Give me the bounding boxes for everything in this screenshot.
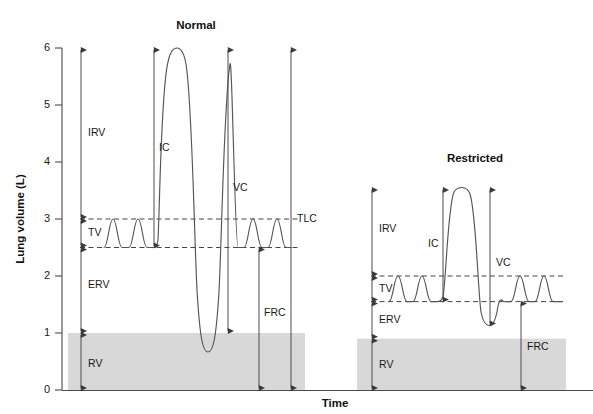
- label-restricted-irv: IRV: [379, 222, 396, 234]
- y-tick-label-6: 6: [44, 41, 50, 53]
- spirogram-chart: 0 1 2 3 4 5 6 Lung volume (L) Time Norma…: [0, 0, 593, 414]
- rv-box-normal: [68, 333, 305, 390]
- label-normal-tlc: TLC: [297, 212, 317, 224]
- label-restricted-erv: ERV: [379, 313, 400, 325]
- panel-title-restricted: Restricted: [447, 152, 503, 164]
- label-normal-rv: RV: [88, 357, 102, 369]
- y-tick-label-3: 3: [44, 212, 50, 224]
- y-tick-label-2: 2: [44, 269, 50, 281]
- label-normal-tv: TV: [88, 226, 101, 238]
- label-normal-erv: ERV: [88, 278, 109, 290]
- label-restricted-vc: VC: [496, 256, 511, 268]
- label-restricted-frc: FRC: [527, 340, 549, 352]
- label-normal-vc: VC: [233, 181, 248, 193]
- label-normal-irv: IRV: [88, 126, 105, 138]
- label-normal-frc: FRC: [264, 306, 286, 318]
- y-axis-title: Lung volume (L): [14, 174, 26, 264]
- y-tick-label-0: 0: [44, 383, 50, 395]
- y-tick-label-1: 1: [44, 326, 50, 338]
- y-axis-ticks: [55, 48, 62, 390]
- y-tick-label-5: 5: [44, 98, 50, 110]
- spirogram-figure: 0 1 2 3 4 5 6 Lung volume (L) Time Norma…: [0, 0, 593, 414]
- panel-title-normal: Normal: [176, 19, 216, 31]
- x-axis-title: Time: [322, 397, 349, 409]
- label-restricted-ic: IC: [428, 237, 439, 249]
- label-restricted-tv: TV: [379, 282, 392, 294]
- label-restricted-rv: RV: [379, 358, 393, 370]
- trace-normal: [104, 48, 291, 352]
- trace-restricted: [389, 188, 562, 326]
- y-tick-label-4: 4: [44, 155, 50, 167]
- label-normal-ic: IC: [159, 141, 170, 153]
